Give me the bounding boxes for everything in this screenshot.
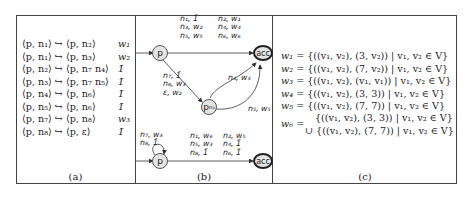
- equation-lhs: w₁: [281, 50, 293, 61]
- rule-weight: w₂: [118, 51, 130, 64]
- equation-row: w₃ = {((v₁, v₂), (v₁, v₁)) | v₁, v₂ ∈ V}: [281, 75, 451, 88]
- equation-lhs: w₅: [281, 100, 293, 111]
- equation-lhs: w₂: [281, 63, 293, 74]
- rule-row: ⟨p, n₁⟩ ↪ ⟨p, n₂⟩w₁: [22, 38, 96, 51]
- rule-lhs: ⟨p, n₁⟩ ↪ ⟨p, n₃⟩: [22, 51, 96, 64]
- panel-c: w₁ = {((v₁, v₂), (3, v₂)) | v₁, v₂ ∈ V} …: [273, 15, 457, 184]
- rule-row: ⟨p, n₁⟩ ↪ ⟨p, n₃⟩w₂: [22, 51, 96, 64]
- label-line: n₆, w₆: [218, 32, 241, 40]
- equation-row: {((v₁, v₂), (3, 3)) | v₁, v₂ ∈ V}: [315, 112, 453, 125]
- rule-lhs: ⟨p, n₈⟩ ↪ ⟨p, ε⟩: [22, 126, 91, 139]
- equation-row: w₂ = {((v₁, v₂), (7, v₂)) | v₁, v₂ ∈ V}: [281, 63, 448, 76]
- equation-lhs: w₄: [281, 88, 293, 99]
- edge-label-pn4-acc-upper: n₄, w₄: [228, 74, 251, 82]
- equation-rhs: = {((v₁, v₂), (v₁, v₁)) | v₁, v₂ ∈ V}: [296, 75, 451, 86]
- state-acc-top: acc: [253, 45, 273, 61]
- edge-label-pn4-acc-lower: n₅, w₅: [248, 105, 271, 113]
- equation-lhs: w₃: [281, 75, 293, 86]
- state-subscript: n₄: [209, 104, 215, 110]
- equation-row: w₄ = {((v₁, v₂), (3, 3)) | v₁, v₂ ∈ V}: [281, 88, 445, 101]
- rule-lhs: ⟨p, n₁⟩ ↪ ⟨p, n₂⟩: [22, 38, 96, 51]
- caption-a: (a): [16, 171, 135, 182]
- caption-c: (c): [273, 171, 457, 182]
- edge-label-p-acc-1: n₁, 1̄ n₃, w₂ n₅, w₅: [180, 15, 203, 40]
- state-p-bottom: p: [152, 153, 168, 169]
- self-loop-label: n₇, w₃ n₈, 1̄: [140, 131, 163, 148]
- equation-rhs: {((v₁, v₂), (3, 3)) | v₁, v₂ ∈ V}: [315, 112, 453, 123]
- equation-row: ∪ {((v₁, v₂), (7, 7)) | v₁, v₂ ∈ V}: [305, 125, 454, 138]
- rule-lhs: ⟨p, n₂⟩ ↪ ⟨p, n₇ n₄⟩: [22, 63, 109, 76]
- rule-weight: 1̄: [118, 76, 124, 89]
- edge-label-p-acc-2: n₂, w₁ n₄, w₄ n₆, w₆: [218, 15, 241, 40]
- label-line: n₅, w₅: [180, 32, 203, 40]
- state-label: p: [157, 48, 163, 58]
- rule-lhs: ⟨p, n₇⟩ ↪ ⟨p, n₈⟩: [22, 113, 96, 126]
- rule-weight: 1̄: [118, 63, 124, 76]
- equation-rhs: = {((v₁, v₂), (7, 7)) | v₁, v₂ ∈ V}: [296, 100, 445, 111]
- label-line: n₈, 1̄: [190, 149, 213, 157]
- edge-label-p-acc-bottom-1: n₁, w₆ n₅, w₃ n₈, 1̄: [190, 132, 213, 157]
- edge-label-p-acc-bottom-2: n₂, w₅ n₄, 1̄ n₆, 1̄: [223, 132, 246, 157]
- caption-b: (b): [136, 171, 272, 182]
- equation-rhs: = {((v₁, v₂), (7, v₂)) | v₁, v₂ ∈ V}: [296, 63, 448, 74]
- rule-weight: w₁: [118, 38, 130, 51]
- equation-row: w₆ =: [281, 118, 304, 131]
- rule-row: ⟨p, n₂⟩ ↪ ⟨p, n₇ n₄⟩1̄: [22, 63, 109, 76]
- state-acc-bottom: acc: [253, 153, 273, 169]
- equation-rhs: = {((v₁, v₂), (3, v₂)) | v₁, v₂ ∈ V}: [296, 50, 448, 61]
- rule-row: ⟨p, n₇⟩ ↪ ⟨p, n₈⟩w₃: [22, 113, 96, 126]
- rule-weight: 1̄: [118, 101, 124, 114]
- equation-lhs: w₆: [281, 118, 293, 129]
- state-label: acc: [256, 49, 270, 58]
- rule-lhs: ⟨p, n₅⟩ ↪ ⟨p, n₆⟩: [22, 101, 96, 114]
- label-line: ε, w₂: [163, 89, 186, 97]
- equation-rhs: =: [296, 118, 304, 129]
- rule-row: ⟨p, n₅⟩ ↪ ⟨p, n₆⟩1̄: [22, 101, 96, 114]
- edge-label-p-pn4: n₇, 1̄ n₈, w₃ ε, w₂: [163, 72, 186, 97]
- state-p-top: p: [152, 45, 168, 61]
- equation-rhs: = {((v₁, v₂), (3, 3)) | v₁, v₂ ∈ V}: [296, 88, 445, 99]
- rule-lhs: ⟨p, n₄⟩ ↪ ⟨p, n₆⟩: [22, 88, 96, 101]
- state-label: p: [157, 156, 163, 166]
- rule-row: ⟨p, n₄⟩ ↪ ⟨p, n₆⟩1̄: [22, 88, 96, 101]
- label-line: n₆, 1̄: [223, 149, 246, 157]
- equation-row: w₁ = {((v₁, v₂), (3, v₂)) | v₁, v₂ ∈ V}: [281, 50, 448, 63]
- panel-a: ⟨p, n₁⟩ ↪ ⟨p, n₂⟩w₁ ⟨p, n₁⟩ ↪ ⟨p, n₃⟩w₂ …: [16, 15, 135, 184]
- rule-weight: 1̄: [118, 88, 124, 101]
- rule-lhs: ⟨p, n₃⟩ ↪ ⟨p, n₇ n₅⟩: [22, 76, 109, 89]
- rule-weight: 1̄: [118, 126, 124, 139]
- label-line: n₈, 1̄: [140, 139, 163, 147]
- state-label: acc: [256, 157, 270, 166]
- rule-weight: w₃: [118, 113, 130, 126]
- equation-row: w₅ = {((v₁, v₂), (7, 7)) | v₁, v₂ ∈ V}: [281, 100, 445, 113]
- panel-b: p pn₄ acc n₁, 1̄ n₃, w₂ n₅, w₅ n₂, w₁ n₄…: [136, 15, 272, 184]
- equation-rhs: ∪ {((v₁, v₂), (7, 7)) | v₁, v₂ ∈ V}: [305, 125, 454, 136]
- rule-row: ⟨p, n₃⟩ ↪ ⟨p, n₇ n₅⟩1̄: [22, 76, 109, 89]
- state-pn4: pn₄: [201, 99, 217, 115]
- rule-row: ⟨p, n₈⟩ ↪ ⟨p, ε⟩1̄: [22, 126, 91, 139]
